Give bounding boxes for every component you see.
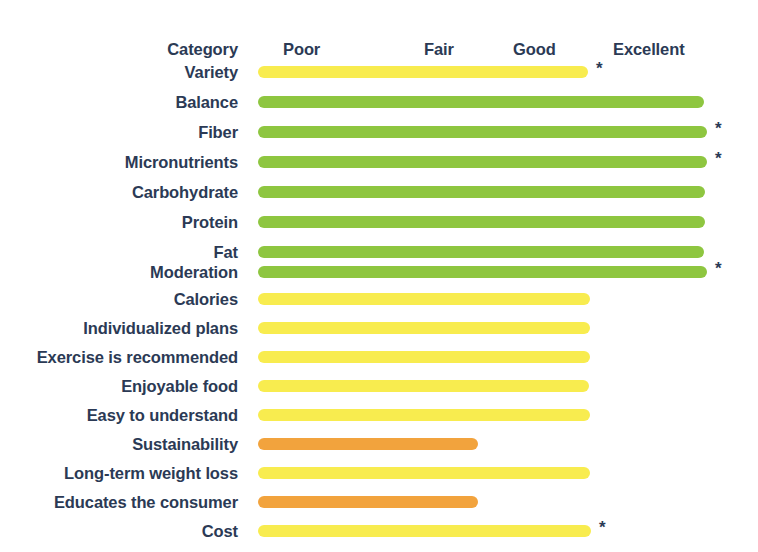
chart-row: Enjoyable food — [0, 376, 758, 402]
chart-row: Educates the consumer — [0, 492, 758, 518]
row-label: Cost — [202, 521, 238, 541]
row-label: Balance — [175, 92, 238, 112]
footnote-asterisk: * — [715, 119, 722, 139]
chart-row: Sustainability — [0, 434, 758, 460]
rating-bar — [258, 96, 704, 108]
rating-bar — [258, 525, 591, 537]
rating-bar — [258, 496, 478, 508]
row-label: Calories — [174, 289, 238, 309]
row-label: Sustainability — [132, 434, 238, 454]
chart-row: Fiber* — [0, 122, 758, 148]
rating-bar — [258, 467, 590, 479]
chart-row: Variety* — [0, 62, 758, 88]
row-label: Fiber — [198, 122, 238, 142]
rating-bar — [258, 266, 707, 278]
chart-row: Moderation* — [0, 262, 758, 288]
chart-row: Carbohydrate — [0, 182, 758, 208]
row-label: Micronutrients — [125, 152, 238, 172]
footnote-asterisk: * — [599, 518, 606, 538]
rating-bar — [258, 380, 589, 392]
rating-bar — [258, 438, 478, 450]
chart-row: Long-term weight loss — [0, 463, 758, 489]
row-label: Long-term weight loss — [64, 463, 238, 483]
row-label: Exercise is recommended — [37, 347, 238, 367]
chart-row: Cost* — [0, 521, 758, 547]
row-label: Protein — [182, 212, 238, 232]
rating-bar — [258, 293, 590, 305]
row-label: Variety — [185, 62, 238, 82]
footnote-asterisk: * — [596, 59, 603, 79]
rating-bar — [258, 409, 590, 421]
rating-bar — [258, 66, 588, 78]
rating-bar — [258, 216, 705, 228]
chart-rows: Variety*BalanceFiber*Micronutrients*Carb… — [0, 0, 758, 552]
row-label: Carbohydrate — [132, 182, 238, 202]
rating-bar — [258, 322, 590, 334]
rating-bar — [258, 126, 707, 138]
rating-bar — [258, 156, 707, 168]
chart-row: Easy to understand — [0, 405, 758, 431]
diet-quality-rating-chart: Category Poor Fair Good Excellent Variet… — [0, 0, 758, 552]
row-label: Moderation — [150, 262, 238, 282]
chart-row: Micronutrients* — [0, 152, 758, 178]
chart-row: Balance — [0, 92, 758, 118]
chart-row: Protein — [0, 212, 758, 238]
row-label: Fat — [214, 242, 238, 262]
row-label: Enjoyable food — [121, 376, 238, 396]
chart-row: Calories — [0, 289, 758, 315]
footnote-asterisk: * — [715, 149, 722, 169]
rating-bar — [258, 246, 704, 258]
rating-bar — [258, 351, 590, 363]
row-label: Individualized plans — [83, 318, 238, 338]
footnote-asterisk: * — [715, 259, 722, 279]
row-label: Easy to understand — [87, 405, 238, 425]
row-label: Educates the consumer — [54, 492, 238, 512]
rating-bar — [258, 186, 705, 198]
chart-row: Exercise is recommended — [0, 347, 758, 373]
chart-row: Individualized plans — [0, 318, 758, 344]
